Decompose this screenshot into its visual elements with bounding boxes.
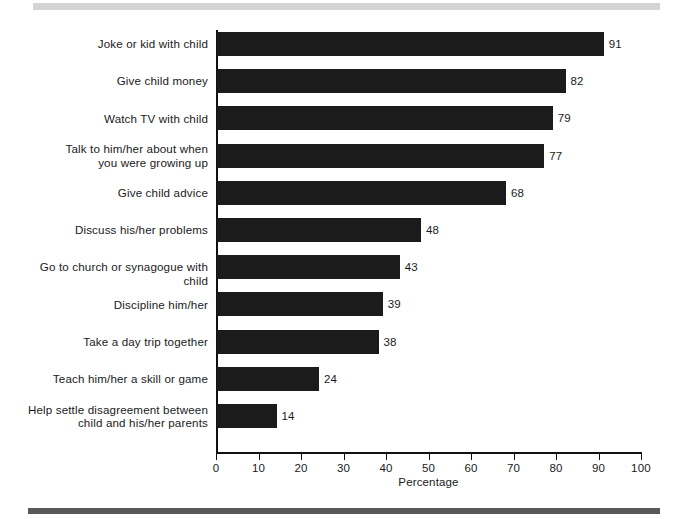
category-label: Discipline him/her — [20, 298, 208, 311]
bar — [217, 181, 506, 205]
horizontal-bar-chart: Joke or kid with child91Give child money… — [0, 0, 679, 519]
bar-value-label: 39 — [388, 298, 401, 310]
bar — [217, 69, 566, 93]
x-axis-tick — [641, 453, 642, 460]
x-axis-tick — [301, 453, 302, 460]
x-axis-tick-label: 20 — [294, 462, 307, 474]
bar — [217, 292, 383, 316]
x-axis-tick-label: 0 — [213, 462, 220, 474]
bar-track: 14 — [217, 404, 642, 428]
category-label: Teach him/her a skill or game — [20, 372, 208, 385]
bar — [217, 144, 544, 168]
x-axis-tick — [556, 453, 557, 460]
x-axis-tick — [216, 453, 217, 460]
bar — [217, 404, 277, 428]
category-label: Watch TV with child — [20, 112, 208, 125]
x-axis-tick-label: 70 — [507, 462, 520, 474]
bar-track: 77 — [217, 144, 642, 168]
bar-value-label: 68 — [511, 187, 524, 199]
bar-track: 48 — [217, 218, 642, 242]
category-label: Joke or kid with child — [20, 37, 208, 50]
bar-value-label: 91 — [609, 38, 622, 50]
bar-value-label: 43 — [405, 261, 418, 273]
x-axis-tick-label: 40 — [379, 462, 392, 474]
bar-value-label: 77 — [549, 150, 562, 162]
bar-value-label: 79 — [558, 112, 571, 124]
bar-value-label: 38 — [384, 336, 397, 348]
bar-value-label: 82 — [571, 75, 584, 87]
category-label: Give child advice — [20, 186, 208, 199]
x-axis-tick-label: 90 — [592, 462, 605, 474]
bar — [217, 330, 379, 354]
bar-track: 24 — [217, 367, 642, 391]
bar — [217, 218, 421, 242]
category-label: Go to church or synagogue with child — [20, 260, 208, 287]
category-label: Talk to him/her about when you were grow… — [20, 142, 208, 169]
x-axis-tick — [429, 453, 430, 460]
x-axis-tick-label: 80 — [549, 462, 562, 474]
bar-value-label: 24 — [324, 373, 337, 385]
x-axis-tick-label: 50 — [422, 462, 435, 474]
category-label: Help settle disagreement between child a… — [20, 403, 208, 430]
category-label: Give child money — [20, 74, 208, 87]
x-axis-tick — [344, 453, 345, 460]
x-axis-title: Percentage — [216, 476, 641, 488]
bar-track: 43 — [217, 255, 642, 279]
x-axis-tick — [599, 453, 600, 460]
x-axis-tick-label: 10 — [252, 462, 265, 474]
bar-track: 79 — [217, 106, 642, 130]
bar — [217, 106, 553, 130]
x-axis-tick — [259, 453, 260, 460]
category-label: Take a day trip together — [20, 335, 208, 348]
bar — [217, 367, 319, 391]
bar-value-label: 14 — [282, 410, 295, 422]
x-axis-tick — [386, 453, 387, 460]
bar — [217, 255, 400, 279]
bar-track: 39 — [217, 292, 642, 316]
x-axis-tick-label: 100 — [631, 462, 651, 474]
bar-value-label: 48 — [426, 224, 439, 236]
x-axis-tick — [471, 453, 472, 460]
x-axis-tick-label: 30 — [337, 462, 350, 474]
x-axis-tick-label: 60 — [464, 462, 477, 474]
category-label: Discuss his/her problems — [20, 223, 208, 236]
x-axis-tick — [514, 453, 515, 460]
bar-track: 68 — [217, 181, 642, 205]
bar-track: 38 — [217, 330, 642, 354]
bar-track: 91 — [217, 32, 642, 56]
bar-track: 82 — [217, 69, 642, 93]
bar — [217, 32, 604, 56]
